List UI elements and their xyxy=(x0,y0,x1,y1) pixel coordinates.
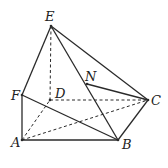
vertex-B xyxy=(117,139,120,142)
vertex-C xyxy=(147,99,150,102)
edge-BC xyxy=(118,100,148,140)
edge-EF xyxy=(22,26,51,95)
vertex-F xyxy=(21,94,24,97)
label-D: D xyxy=(54,86,66,101)
edge-FB xyxy=(22,95,118,140)
label-F: F xyxy=(10,88,21,103)
edge-ED-dashed xyxy=(50,26,51,100)
label-E: E xyxy=(44,9,55,24)
label-B: B xyxy=(121,137,132,152)
label-A: A xyxy=(10,135,20,150)
vertex-D xyxy=(49,99,52,102)
edge-NC xyxy=(87,84,148,100)
edge-EC xyxy=(51,26,148,100)
vertex-E xyxy=(50,25,53,28)
edge-AC-dashed xyxy=(22,100,148,140)
label-C: C xyxy=(151,93,161,108)
geometry-figure: EFDNCAB xyxy=(0,0,168,168)
vertex-A xyxy=(21,139,24,142)
label-N: N xyxy=(84,69,97,84)
